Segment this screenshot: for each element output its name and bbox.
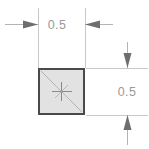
height-arrow-top-icon [124, 53, 132, 68]
width-dimension-label: 0.5 [48, 18, 66, 32]
drawing-svg-root: 0.5 0.5 [0, 0, 149, 149]
width-dimension-group: 0.5 [5, 18, 113, 32]
height-dimension-label: 0.5 [118, 85, 136, 99]
height-dimension-group: 0.5 [118, 42, 136, 145]
width-arrow-right-icon [85, 21, 100, 29]
height-arrow-bottom-icon [124, 115, 132, 130]
technical-drawing-canvas: 0.5 0.5 [0, 0, 149, 149]
square-profile-group [39, 69, 84, 114]
width-arrow-left-icon [23, 21, 38, 29]
